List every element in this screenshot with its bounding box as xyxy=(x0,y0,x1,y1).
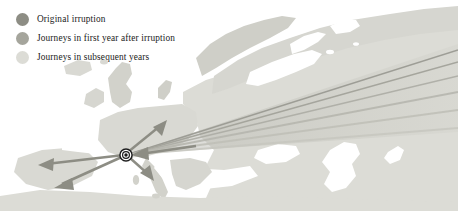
legend-item-first-year: Journeys in first year after irruption xyxy=(16,29,175,48)
filled-circle-icon xyxy=(16,13,29,26)
northern-lake-3 xyxy=(353,42,359,46)
legend-item-subsequent-years: Journeys in subsequent years xyxy=(16,48,175,67)
legend-label-first-year: Journeys in first year after irruption xyxy=(37,34,175,43)
filled-circle-icon xyxy=(16,51,29,64)
origin-point-marker xyxy=(120,149,133,162)
corsica-sardinia xyxy=(133,175,139,185)
legend-label-subsequent-years: Journeys in subsequent years xyxy=(37,53,149,62)
map-legend: Original irruption Journeys in first yea… xyxy=(16,10,175,67)
northern-lake-1 xyxy=(305,53,319,60)
irruption-map-figure: Original irruption Journeys in first yea… xyxy=(0,0,458,211)
legend-label-original-irruption: Original irruption xyxy=(37,15,106,24)
sicily-isle xyxy=(152,194,160,199)
northern-lake-2 xyxy=(326,50,334,54)
great-britain-landmass xyxy=(108,62,132,108)
filled-circle-icon xyxy=(16,32,29,45)
ireland-landmass xyxy=(84,88,104,108)
iberia-landmass xyxy=(14,148,98,190)
legend-item-original-irruption: Original irruption xyxy=(16,10,175,29)
denmark-landmass xyxy=(158,80,172,100)
